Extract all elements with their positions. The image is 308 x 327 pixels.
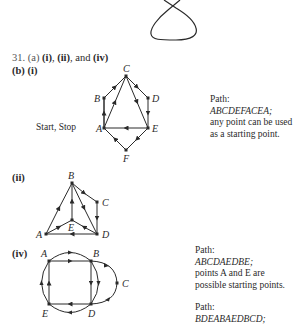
g4-path1-note-1: points A and E are xyxy=(195,268,285,280)
svg-text:D: D xyxy=(87,308,96,319)
svg-text:B: B xyxy=(93,248,99,259)
svg-text:A: A xyxy=(95,123,103,134)
g2-label: (ii) xyxy=(12,172,25,184)
svg-text:C: C xyxy=(102,197,109,208)
g4-path2: BDEABAEDBCD; xyxy=(195,314,266,326)
g4-path1: ABCDAEDBE; xyxy=(195,257,285,269)
g4-label: (iv) xyxy=(12,248,27,260)
part-a-label: (a) xyxy=(28,52,40,63)
part-a-sep-2: , and xyxy=(70,52,93,63)
svg-text:E: E xyxy=(151,123,158,134)
graph-i xyxy=(104,76,148,150)
g1-path: ABCDEFACEA; xyxy=(210,106,292,118)
svg-text:B: B xyxy=(94,93,100,104)
svg-text:C: C xyxy=(122,278,129,289)
g1-path-block: Path: ABCDEFACEA; any point can be used … xyxy=(210,94,292,140)
part-a-answer-2: (ii) xyxy=(57,52,70,63)
svg-text:E: E xyxy=(41,308,48,319)
g1-note-2: as a starting point. xyxy=(210,129,292,141)
start-stop-label: Start, Stop xyxy=(36,122,76,134)
problem-header: 31. (a) (i), (ii), and (iv) xyxy=(12,52,108,64)
svg-text:C: C xyxy=(123,63,130,74)
svg-text:A: A xyxy=(35,229,43,240)
g4-path1-title: Path: xyxy=(195,245,285,257)
graph-iv xyxy=(42,253,118,313)
part-a-answer-1: (i) xyxy=(42,52,52,63)
problem-number: 31. xyxy=(12,52,25,63)
g1-note-1: any point can be used xyxy=(210,117,292,129)
g4-path2-title: Path: xyxy=(195,302,266,314)
svg-text:B: B xyxy=(68,170,74,181)
part-b-header: (b) (i) xyxy=(12,65,37,77)
loop-figure xyxy=(151,0,196,40)
part-a-answer-3: (iv) xyxy=(93,52,108,63)
graph-i-nodes xyxy=(103,75,150,152)
part-b-first: (i) xyxy=(27,65,37,76)
g4-path1-block: Path: ABCDAEDBE; points A and E are poss… xyxy=(195,245,285,291)
svg-text:D: D xyxy=(151,93,160,104)
g4-path2-block: Path: BDEABAEDBCD; xyxy=(195,302,266,325)
part-b-label: (b) xyxy=(12,65,25,76)
g1-path-title: Path: xyxy=(210,94,292,106)
svg-text:D: D xyxy=(101,229,110,240)
g4-path1-note-2: possible starting points. xyxy=(195,280,285,292)
svg-text:E: E xyxy=(67,222,74,233)
svg-text:A: A xyxy=(40,248,48,259)
svg-text:F: F xyxy=(122,153,130,164)
